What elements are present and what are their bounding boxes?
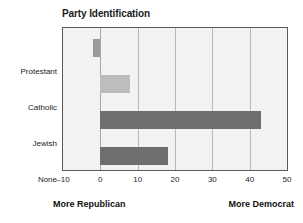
bar-jewish [100,111,261,129]
plot-area [62,27,288,171]
x-tick-label-40: 40 [245,175,254,184]
chart-container: Party Identification Protestant Catholic… [0,0,303,223]
gridline-30 [212,28,213,170]
x-tick-label-30: 30 [208,175,217,184]
category-label-none: None [38,175,57,185]
chart-title: Party Identification [62,8,150,19]
annotation-more-democrat: More Democrat [228,199,294,209]
bar-protestant [93,39,100,57]
x-tick-label--10: –10 [56,175,69,184]
gridline-20 [175,28,176,170]
x-tick-label-50: 50 [283,175,292,184]
x-tick-label-10: 10 [133,175,142,184]
x-axis-tick-labels: –1001020304050 [62,175,288,187]
gridline-40 [250,28,251,170]
bar-catholic [100,75,130,93]
category-label-jewish: Jewish [33,139,57,149]
x-tick-label-0: 0 [98,175,102,184]
x-tick-label-20: 20 [171,175,180,184]
category-label-catholic: Catholic [28,103,57,113]
category-axis-labels: Protestant Catholic Jewish None [0,27,57,171]
bar-none [100,147,167,165]
annotation-more-republican: More Republican [53,199,126,209]
category-label-protestant: Protestant [21,67,57,77]
